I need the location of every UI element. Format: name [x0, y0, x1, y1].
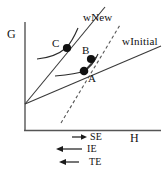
ie-arrow	[56, 146, 82, 152]
effect-label-ie: IE	[87, 144, 97, 154]
se-arrow	[72, 134, 87, 140]
point-a-marker	[80, 67, 89, 76]
point-b-marker	[87, 55, 95, 63]
budget-line-winitial-label: wInitial	[122, 36, 158, 47]
diagram-svg	[0, 0, 167, 177]
point-c-marker	[63, 44, 71, 52]
point-label-b: B	[82, 45, 90, 56]
point-label-a: A	[88, 73, 96, 84]
te-arrow	[59, 159, 79, 165]
y-axis-label: G	[7, 28, 16, 40]
effect-label-te: TE	[89, 157, 102, 167]
point-label-c: C	[52, 38, 60, 49]
x-axis-label: H	[130, 132, 139, 144]
effect-label-se: SE	[90, 132, 102, 142]
budget-line-wnew-label: wNew	[83, 12, 113, 23]
figure-canvas: G H wNew wInitial C B A SE IE TE	[0, 0, 167, 177]
